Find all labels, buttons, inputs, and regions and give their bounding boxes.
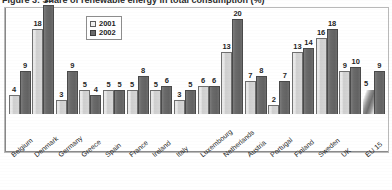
bar-value-label: 23 (44, 0, 52, 4)
bar-value-label: 3 (177, 90, 181, 99)
bar-value-label: 5 (364, 79, 368, 88)
bar-value-label: 13 (222, 42, 230, 51)
bar-value-label: 2 (272, 95, 276, 104)
bar-2002: 20 (232, 19, 243, 114)
bar-2002: 5 (114, 90, 125, 114)
bar-2002: 14 (303, 48, 314, 115)
bar-value-label: 8 (141, 66, 145, 75)
bar-2002: 18 (327, 29, 338, 115)
bar-2001: 16 (316, 38, 327, 114)
bar-2002: 6 (209, 86, 220, 115)
bar-value-label: 4 (94, 85, 98, 94)
bars-layer: 4918233954555856356613207827131416189105… (0, 0, 392, 152)
bar-2001: 7 (245, 81, 256, 114)
bar-value-label: 6 (201, 76, 205, 85)
legend-label-2001: 2001 (99, 19, 116, 28)
bar-value-label: 10 (352, 57, 360, 66)
bar-2001: 3 (174, 100, 185, 114)
bar-2002: 4 (90, 95, 101, 114)
bar-value-label: 6 (165, 76, 169, 85)
bar-2002: 8 (256, 76, 267, 114)
bar-2001: 5 (79, 90, 90, 114)
legend-label-2002: 2002 (99, 28, 116, 37)
bar-value-label: 16 (317, 28, 325, 37)
bar-chart-figure: Figure 3: Share of renewable energy in t… (0, 0, 392, 190)
bar-2002: 9 (67, 71, 78, 114)
bar-2001: 5 (150, 90, 161, 114)
bar-2002: 7 (279, 81, 290, 114)
bar-2001: 3 (56, 100, 67, 114)
legend-swatch-2001-icon (90, 21, 96, 27)
legend-swatch-2002-icon (90, 30, 96, 36)
bar-2001: 13 (221, 52, 232, 114)
bar-2002: 9 (374, 71, 385, 114)
bar-value-label: 9 (23, 61, 27, 70)
bar-value-label: 7 (283, 71, 287, 80)
bar-value-label: 8 (259, 66, 263, 75)
bar-2001: 9 (339, 71, 350, 114)
bar-2001: 4 (9, 95, 20, 114)
bar-2001: 5 (127, 90, 138, 114)
chart-legend: 2001 2002 (86, 16, 122, 40)
bar-2002: 23 (43, 5, 54, 114)
bar-2002: 10 (350, 67, 361, 115)
bar-2001: 5 (103, 90, 114, 114)
legend-item-2002: 2002 (90, 28, 116, 37)
bar-value-label: 4 (12, 85, 16, 94)
bar-value-label: 13 (293, 42, 301, 51)
bar-value-label: 5 (83, 80, 87, 89)
bar-value-label: 3 (59, 90, 63, 99)
bar-value-label: 18 (33, 19, 41, 28)
bar-value-label: 9 (343, 61, 347, 70)
bar-2001: 5 (363, 90, 374, 114)
bar-2001: 13 (292, 52, 303, 114)
bar-2002: 6 (161, 86, 172, 115)
bar-value-label: 18 (328, 19, 336, 28)
bar-value-label: 20 (233, 9, 241, 18)
bar-value-label: 14 (304, 38, 312, 47)
bar-2001: 2 (268, 105, 279, 115)
bar-value-label: 5 (154, 80, 158, 89)
bar-2001: 18 (32, 29, 43, 115)
bar-value-label: 5 (130, 80, 134, 89)
bar-value-label: 6 (212, 76, 216, 85)
legend-item-2001: 2001 (90, 19, 116, 28)
x-axis-tick-labels: BelgiumDenmarkGermanyGreeceSpainFranceIr… (0, 153, 392, 190)
bar-2002: 9 (20, 71, 31, 114)
bar-2001: 6 (198, 86, 209, 115)
bar-value-label: 5 (117, 80, 121, 89)
bar-value-label: 5 (188, 80, 192, 89)
bar-value-label: 5 (106, 80, 110, 89)
bar-value-label: 7 (248, 71, 252, 80)
bar-2002: 8 (138, 76, 149, 114)
bar-value-label: 9 (377, 61, 381, 70)
bar-value-label: 9 (70, 61, 74, 70)
bar-2002: 5 (185, 90, 196, 114)
